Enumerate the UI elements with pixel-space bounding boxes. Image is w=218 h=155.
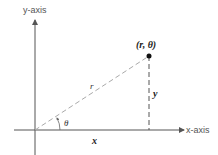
radius-dashed-line: [35, 56, 149, 130]
polar-coordinate-diagram: y-axis x-axis (r, θ) r θ x y: [0, 0, 218, 155]
angle-arc: [57, 118, 60, 130]
y-axis-label: y-axis: [23, 5, 47, 15]
angle-label: θ: [64, 118, 69, 128]
x-component-label: x: [91, 135, 97, 146]
point-label: (r, θ): [136, 39, 156, 51]
x-axis-label: x-axis: [186, 125, 210, 135]
point-marker: [147, 54, 152, 59]
radius-label: r: [90, 81, 94, 91]
y-component-label: y: [152, 88, 158, 99]
